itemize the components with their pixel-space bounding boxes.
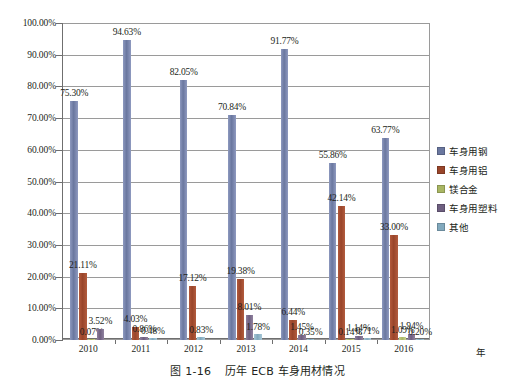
- x-axis-tick-2011: 2011: [132, 344, 151, 354]
- bar-2011-series-4: [149, 338, 157, 340]
- data-label-2011-series-0: 94.63%: [113, 27, 141, 37]
- bar-2015-series-2: [346, 339, 354, 340]
- legend-label: 车身用塑料: [449, 201, 498, 215]
- bar-group-2014: 91.77%6.44%1.45%0.35%: [272, 23, 325, 340]
- bar-2013-series-0: [228, 115, 236, 340]
- data-label-2013-series-0: 70.84%: [218, 102, 246, 112]
- data-label-2013-series-4: 1.78%: [246, 322, 270, 332]
- caption-title: 历年 ECB 车身用材情况: [225, 365, 345, 378]
- data-label-2014-series-4: 0.35%: [299, 327, 323, 337]
- x-axis-tick-2013: 2013: [237, 344, 256, 354]
- legend-swatch-icon: [437, 166, 445, 174]
- bar-2010-series-3: [97, 329, 105, 340]
- y-axis-tick-label: 90.00%: [0, 50, 56, 60]
- bar-2010-series-0: [70, 101, 78, 340]
- legend-swatch-icon: [437, 204, 445, 212]
- legend-label: 车身用铝: [449, 163, 488, 177]
- y-axis-tick-label: 100.00%: [0, 18, 56, 28]
- x-axis-labels: 2010201120122013201420152016: [62, 344, 430, 362]
- legend-item-4[interactable]: 其他: [437, 217, 515, 236]
- data-label-2016-series-4: 0.20%: [408, 327, 432, 337]
- data-label-2016-series-0: 63.77%: [371, 125, 399, 135]
- y-axis: 0.00%10.00%20.00%30.00%40.00%50.00%60.00…: [0, 0, 60, 383]
- x-axis-tick-2014: 2014: [289, 344, 308, 354]
- data-label-2011-series-4: 0.48%: [141, 326, 165, 336]
- data-label-2010-series-1: 21.11%: [69, 260, 97, 270]
- data-label-2012-series-4: 0.83%: [189, 325, 213, 335]
- data-label-2013-series-1: 19.38%: [227, 266, 255, 276]
- bar-2015-series-4: [364, 338, 372, 340]
- data-label-2014-series-1: 6.44%: [281, 307, 305, 317]
- y-axis-tick-label: 50.00%: [0, 177, 56, 187]
- legend-item-3[interactable]: 车身用塑料: [437, 198, 515, 217]
- y-axis-tick-label: 60.00%: [0, 145, 56, 155]
- bar-2013-series-4: [254, 334, 262, 340]
- x-axis-tick-2010: 2010: [79, 344, 98, 354]
- figure-caption: 图1-16历年 ECB 车身用材情况: [0, 362, 515, 378]
- legend-label: 车身用钢: [449, 144, 488, 158]
- legend-label: 其他: [449, 220, 468, 234]
- y-axis-tick-label: 10.00%: [0, 303, 56, 313]
- bar-2010-series-2: [88, 339, 96, 340]
- bar-group-2015: 55.86%42.14%0.14%1.14%0.71%: [325, 23, 378, 340]
- bar-2015-series-0: [329, 163, 337, 340]
- data-label-2011-series-1: 4.03%: [124, 314, 148, 324]
- bar-group-2016: 63.77%33.00%1.09%1.94%0.20%: [377, 23, 430, 340]
- legend: 车身用钢车身用铝镁合金车身用塑料其他: [437, 141, 515, 236]
- x-axis-tick-2016: 2016: [394, 344, 413, 354]
- legend-item-1[interactable]: 车身用铝: [437, 160, 515, 179]
- legend-swatch-icon: [437, 223, 445, 231]
- data-label-2015-series-4: 0.71%: [356, 326, 380, 336]
- bar-2011-series-0: [123, 40, 131, 340]
- x-axis-tick-2012: 2012: [184, 344, 203, 354]
- bar-groups: 75.30%21.11%0.07%3.52%94.63%4.03%0.86%0.…: [62, 23, 430, 340]
- x-axis-tick-2015: 2015: [342, 344, 361, 354]
- bar-2011-series-3: [140, 337, 148, 340]
- legend-label: 镁合金: [449, 182, 478, 196]
- bar-2016-series-2: [399, 337, 407, 340]
- caption-prefix: 图: [170, 365, 181, 378]
- figure-ecb-body-material-chart: 0.00%10.00%20.00%30.00%40.00%50.00%60.00…: [0, 0, 515, 383]
- legend-swatch-icon: [437, 147, 445, 155]
- data-label-2015-series-0: 55.86%: [319, 150, 347, 160]
- y-axis-tick-label: 20.00%: [0, 272, 56, 282]
- y-axis-tick-label: 40.00%: [0, 208, 56, 218]
- bar-group-2010: 75.30%21.11%0.07%3.52%: [62, 23, 115, 340]
- caption-number: 1-16: [185, 365, 211, 378]
- y-axis-tick-label: 70.00%: [0, 113, 56, 123]
- data-label-2012-series-1: 17.12%: [178, 273, 206, 283]
- bar-group-2011: 94.63%4.03%0.86%0.48%: [115, 23, 168, 340]
- legend-swatch-icon: [437, 185, 445, 193]
- data-label-2016-series-1: 33.00%: [380, 222, 408, 232]
- bar-2016-series-0: [382, 138, 390, 340]
- bar-group-2013: 70.84%19.38%8.01%1.78%: [220, 23, 273, 340]
- data-label-2010-series-3: 3.52%: [89, 316, 113, 326]
- legend-item-2[interactable]: 镁合金: [437, 179, 515, 198]
- bar-2015-series-3: [355, 336, 363, 340]
- bar-2014-series-0: [281, 49, 289, 340]
- bar-2012-series-4: [197, 337, 205, 340]
- x-axis-unit-label: 年: [476, 345, 486, 359]
- bar-group-2012: 82.05%17.12%0.83%: [167, 23, 220, 340]
- data-label-2014-series-0: 91.77%: [270, 36, 298, 46]
- bar-2015-series-1: [338, 206, 346, 340]
- y-axis-tick-label: 30.00%: [0, 240, 56, 250]
- bar-2012-series-0: [180, 80, 188, 340]
- data-label-2013-series-3: 8.01%: [238, 302, 262, 312]
- data-label-2015-series-1: 42.14%: [327, 193, 355, 203]
- y-axis-tick-label: 80.00%: [0, 81, 56, 91]
- bar-2016-series-4: [416, 339, 424, 340]
- bar-2014-series-4: [307, 339, 315, 340]
- data-label-2010-series-0: 75.30%: [60, 88, 88, 98]
- data-label-2012-series-0: 82.05%: [170, 67, 198, 77]
- legend-item-0[interactable]: 车身用钢: [437, 141, 515, 160]
- y-axis-tick-label: 0.00%: [0, 335, 56, 345]
